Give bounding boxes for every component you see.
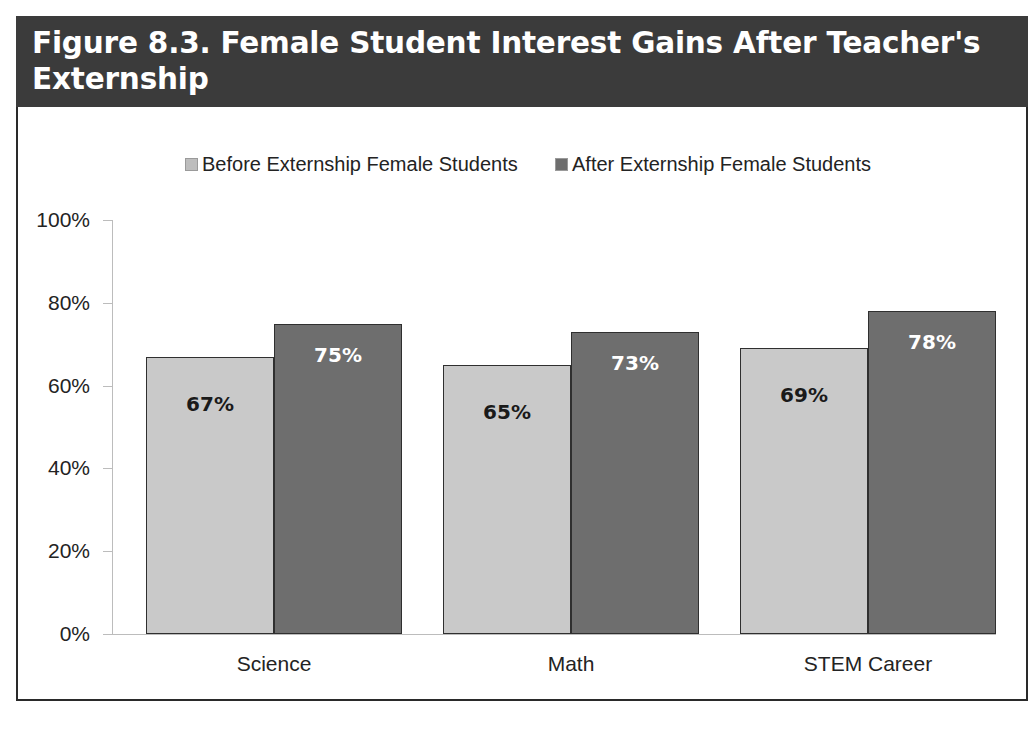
y-tick-label-80: 80% — [48, 291, 90, 315]
chart-legend: Before Externship Female Students After … — [18, 153, 1030, 183]
bar-value-science-before: 67% — [147, 392, 273, 416]
y-tick-40: 40% — [103, 468, 112, 469]
legend-item-before[interactable]: Before Externship Female Students — [185, 153, 518, 176]
x-axis-line — [112, 634, 996, 635]
y-tick-100: 100% — [103, 220, 112, 221]
bar-stem-career-before[interactable]: 69% — [740, 348, 868, 634]
bar-value-stem-career-after: 78% — [869, 330, 995, 354]
figure-title-band: Figure 8.3. Female Student Interest Gain… — [16, 16, 1028, 107]
legend-swatch-after-icon — [555, 158, 568, 171]
legend-item-after[interactable]: After Externship Female Students — [555, 153, 871, 176]
bar-science-after[interactable]: 75% — [274, 324, 402, 634]
y-tick-20: 20% — [103, 551, 112, 552]
bar-group-math: 65% 73% Math — [443, 220, 699, 634]
y-tick-60: 60% — [103, 386, 112, 387]
bar-group-stem-career: 69% 78% STEM Career — [740, 220, 996, 634]
y-axis-line — [112, 220, 113, 634]
y-tick-0: 0% — [103, 634, 112, 635]
legend-swatch-before-icon — [185, 158, 198, 171]
figure-container: Figure 8.3. Female Student Interest Gain… — [0, 0, 1033, 729]
y-tick-label-40: 40% — [48, 456, 90, 480]
plot-area: 100% 80% 60% 40% 20% 0% 67% — [112, 220, 996, 634]
y-tick-80: 80% — [103, 303, 112, 304]
y-tick-label-0: 0% — [60, 622, 90, 646]
y-tick-label-100: 100% — [36, 208, 90, 232]
bar-value-science-after: 75% — [275, 343, 401, 367]
legend-label-before: Before Externship Female Students — [202, 153, 518, 176]
category-label-science: Science — [146, 652, 402, 676]
bar-science-before[interactable]: 67% — [146, 357, 274, 634]
figure-title: Figure 8.3. Female Student Interest Gain… — [32, 25, 1012, 97]
bar-value-stem-career-before: 69% — [741, 383, 867, 407]
bar-math-after[interactable]: 73% — [571, 332, 699, 634]
bar-stem-career-after[interactable]: 78% — [868, 311, 996, 634]
bar-group-science: 67% 75% Science — [146, 220, 402, 634]
bar-value-math-before: 65% — [444, 400, 570, 424]
bar-value-math-after: 73% — [572, 351, 698, 375]
chart-frame: Before Externship Female Students After … — [16, 107, 1028, 701]
category-label-stem-career: STEM Career — [740, 652, 996, 676]
category-label-math: Math — [443, 652, 699, 676]
legend-label-after: After Externship Female Students — [572, 153, 871, 176]
y-tick-label-20: 20% — [48, 539, 90, 563]
y-tick-label-60: 60% — [48, 374, 90, 398]
bar-math-before[interactable]: 65% — [443, 365, 571, 634]
